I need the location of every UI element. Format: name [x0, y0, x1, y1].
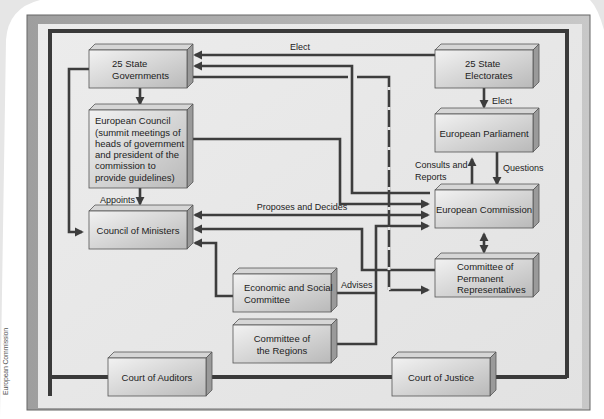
box-economic-social-committee: Economic and SocialCommittee [233, 268, 337, 312]
economic-social-committee-label: Economic and Social [244, 282, 333, 293]
european-council-label: commission to [95, 160, 156, 171]
european-commission-label: European Commission [436, 204, 532, 215]
box-european-commission: European Commission [435, 184, 539, 228]
box-european-parliament: European Parliament [435, 108, 539, 152]
court-of-auditors-label: Court of Auditors [122, 372, 193, 383]
box-european-council: European Council(summit meetings ofheads… [89, 104, 193, 188]
box-court-of-auditors: Court of Auditors [108, 352, 212, 396]
european-council-label: provide guidelines) [95, 172, 175, 183]
box-state-electorates: 25 StateElectorates [435, 44, 539, 88]
permanent-representatives-label: Committee of [457, 261, 514, 272]
council-of-ministers-label: Council of Ministers [97, 225, 180, 236]
permanent-representatives-label: Permanent [457, 273, 504, 284]
label-elect-top: Elect [290, 42, 311, 52]
label-appoints: Appoints [100, 195, 136, 205]
eu-institutions-diagram: 25 StateGovernmentsEuropean Council(summ… [0, 0, 604, 419]
image-credit: European Commission [2, 328, 9, 395]
european-council-label: (summit meetings of [95, 127, 181, 138]
state-governments-label: Governments [112, 70, 169, 81]
label-proposes-decides: Proposes and Decides [257, 202, 348, 212]
box-committee-of-regions: Committee ofthe Regions [233, 319, 337, 363]
court-of-justice-label: Court of Justice [408, 372, 474, 383]
label-questions: Questions [503, 163, 544, 173]
economic-social-committee-label: Committee [244, 294, 290, 305]
label-consults-reports-1: Consults and [415, 160, 468, 170]
state-electorates-label: Electorates [465, 70, 513, 81]
state-electorates-label: 25 State [465, 58, 500, 69]
permanent-representatives-label: Representatives [457, 284, 526, 295]
box-court-of-justice: Court of Justice [392, 352, 496, 396]
european-parliament-label: European Parliament [439, 128, 529, 139]
label-advises: Advises [341, 280, 373, 290]
european-council-label: and president of the [95, 149, 179, 160]
committee-of-regions-label: Committee of [254, 333, 311, 344]
box-council-of-ministers: Council of Ministers [89, 205, 193, 249]
european-council-label: heads of government [95, 138, 185, 149]
state-governments-label: 25 State [112, 58, 147, 69]
committee-of-regions-label: the Regions [257, 345, 308, 356]
box-permanent-representatives: Committee ofPermanentRepresentatives [435, 253, 539, 297]
label-elect-parliament: Elect [492, 96, 513, 106]
label-consults-reports-2: Reports [415, 172, 447, 182]
european-council-label: European Council [95, 115, 171, 126]
box-state-governments: 25 StateGovernments [89, 44, 193, 88]
